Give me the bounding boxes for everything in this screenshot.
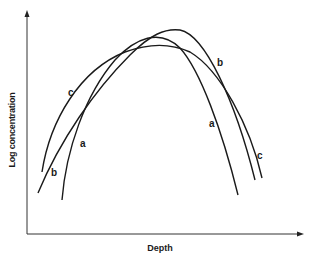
curve-label-c-left: c [68,87,74,98]
curve-c [42,45,262,178]
curve-label-b-right: b [217,57,223,68]
chart-svg: a a b b c c [0,0,312,264]
curve-label-c-right: c [257,150,263,161]
curve-label-a-right: a [209,118,215,129]
y-axis-arrow-icon [25,10,30,17]
curve-label-b-left: b [51,167,57,178]
x-axis-arrow-icon [297,232,304,237]
curve-b [38,30,255,193]
curve-label-a-left: a [80,138,86,149]
x-axis-label: Depth [147,243,173,253]
y-axis-label: Log concentration [7,92,17,167]
line-chart: a a b b c c Log concentration Depth [0,0,312,264]
